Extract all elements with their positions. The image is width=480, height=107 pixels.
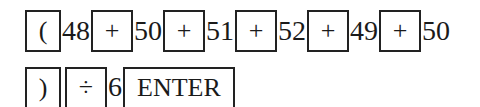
plus-key[interactable]: + — [307, 10, 349, 52]
number-48: 48 — [61, 15, 91, 47]
keystroke-row-2: ) ÷ 6 ENTER — [25, 67, 235, 107]
close-paren-key[interactable]: ) — [25, 67, 61, 107]
number-6: 6 — [107, 71, 123, 103]
plus-key[interactable]: + — [163, 10, 205, 52]
number-50: 50 — [421, 15, 451, 47]
keystroke-row-1: ( 48 + 50 + 51 + 52 + 49 + 50 — [25, 10, 451, 52]
number-49: 49 — [349, 15, 379, 47]
number-51: 51 — [205, 15, 235, 47]
plus-key[interactable]: + — [235, 10, 277, 52]
open-paren-key[interactable]: ( — [25, 10, 61, 52]
plus-key[interactable]: + — [91, 10, 133, 52]
plus-key[interactable]: + — [379, 10, 421, 52]
number-52: 52 — [277, 15, 307, 47]
divide-key[interactable]: ÷ — [65, 67, 107, 107]
enter-key[interactable]: ENTER — [123, 67, 235, 107]
number-50: 50 — [133, 15, 163, 47]
